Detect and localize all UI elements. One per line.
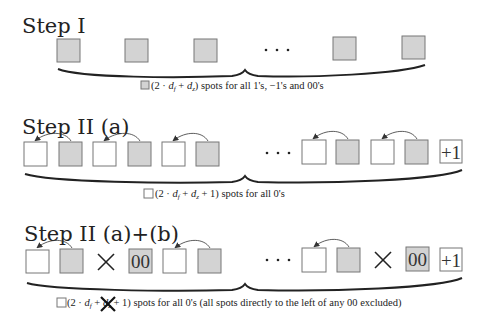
white-spot [93,142,116,166]
white-spot [302,248,326,272]
legend-white-box-icon [144,189,153,198]
underbrace [25,170,462,183]
ellipsis-dots [266,259,291,262]
grey-spot [336,140,359,164]
double-zero-box: 00 [406,247,429,271]
white-spot [163,249,186,273]
step-1: Step I (2 · df + dz) spots for all 1's, … [22,14,425,93]
excluded-x-icon [375,252,391,268]
grey-spot [59,142,82,166]
grey-spot [402,36,425,59]
white-spot [302,140,326,164]
step-2ab-title: Step II (a)+(b) [24,222,179,246]
excluded-x-icon [98,254,114,270]
grey-spot [198,249,221,273]
move-arrow-icon [174,133,208,141]
step-2ab-label: (2 · df + dz + 1) spots for all 0's (all… [57,297,402,311]
ellipsis-dots [266,152,291,155]
svg-text:+1: +1 [441,250,461,271]
svg-text:(2 · df + dz + 1) spots for al: (2 · df + dz + 1) spots for all 0's (all… [67,297,402,310]
step-1-label: (2 · df + dz) spots for all 1's, −1's an… [141,80,324,93]
plus-one-box: +1 [440,140,462,163]
svg-text:(2 · df + dz + 1) spots for al: (2 · df + dz + 1) spots for all 0's [155,188,285,201]
white-spot [26,250,49,273]
plus-one-box: +1 [440,248,462,271]
grey-spot [57,39,80,62]
grey-spot [128,142,151,166]
underbrace [27,278,462,291]
move-arrow-icon [176,240,210,248]
step-2ab: Step II (a)+(b) 00 [24,222,462,311]
svg-text:(2 · df + dz) spots for all 1': (2 · df + dz) spots for all 1's, −1's an… [151,80,324,93]
legend-grey-box-icon [141,81,149,89]
white-spot [162,142,185,166]
move-arrow-icon [314,131,348,139]
white-spot [371,140,394,164]
grey-spot [194,39,217,62]
svg-text:+1: +1 [441,142,461,163]
double-zero-box: 00 [129,249,152,273]
svg-text:00: 00 [408,249,427,270]
ellipsis-dots [265,49,290,52]
svg-text:00: 00 [131,251,150,272]
step-2a: Step II (a) +1 [22,115,462,201]
legend-white-box-icon [57,298,66,307]
grey-spot [60,249,83,273]
grey-spot [196,142,219,166]
grey-spot [333,37,356,60]
diagram-canvas: Step I (2 · df + dz) spots for all 1's, … [0,0,485,327]
grey-spot [125,39,148,62]
move-arrow-icon [315,239,349,247]
grey-spot [405,140,428,164]
step-2a-label: (2 · df + dz + 1) spots for all 0's [144,188,285,201]
move-arrow-icon [383,131,417,139]
grey-spot [337,248,360,272]
white-spot [24,142,47,166]
step-1-title: Step I [22,14,86,38]
underbrace [58,65,425,77]
